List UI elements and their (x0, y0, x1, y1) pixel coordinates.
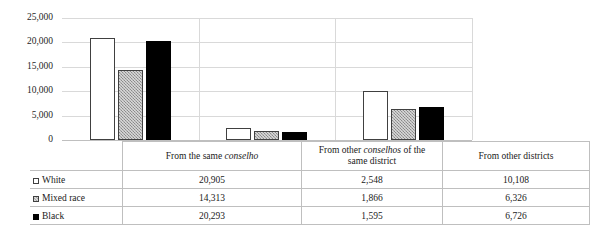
data-table: From the same conselhoFrom other conselh… (30, 141, 590, 225)
bar-mixed-race (118, 70, 143, 140)
bar-mixed-race (391, 109, 416, 140)
table-column-header: From other conselhos of thesame district (302, 142, 443, 171)
table-value-cell: 20,293 (123, 207, 302, 225)
legend-swatch-icon (33, 214, 39, 220)
bar-black (419, 107, 444, 140)
y-axis-tick-label: 10,000 (0, 86, 53, 96)
table-value-cell: 14,313 (123, 189, 302, 207)
data-table-body: From the same conselhoFrom other conselh… (30, 142, 590, 225)
legend-swatch-icon (33, 178, 39, 184)
table-header-row: From the same conselhoFrom other conselh… (30, 142, 590, 171)
legend-swatch-icon (33, 196, 39, 202)
table-value-cell: 20,905 (123, 171, 302, 189)
legend-entry-mixed-race: Mixed race (30, 189, 123, 207)
table-value-cell: 6,726 (443, 207, 590, 225)
table-value-cell: 1,866 (302, 189, 443, 207)
y-axis-tick-label: 15,000 (0, 62, 53, 72)
table-column-header: From the same conselho (123, 142, 302, 171)
plot-area: 05,00010,00015,00020,00025,000 (62, 18, 472, 140)
bar-cluster (62, 18, 199, 140)
bar-white (363, 91, 388, 140)
bar-mixed-race (254, 131, 279, 140)
table-value-cell: 2,548 (302, 171, 443, 189)
bar-black (282, 132, 307, 140)
table-corner-cell (30, 142, 123, 171)
table-value-cell: 1,595 (302, 207, 443, 225)
table-value-cell: 6,326 (443, 189, 590, 207)
table-row: White20,9052,54810,108 (30, 171, 590, 189)
bar-black (146, 41, 171, 140)
bar-cluster (335, 18, 472, 140)
legend-entry-white: White (30, 171, 123, 189)
table-value-cell: 10,108 (443, 171, 590, 189)
bar-white (90, 38, 115, 140)
y-axis-tick-label: 5,000 (0, 111, 53, 121)
table-column-header: From other districts (443, 142, 590, 171)
category-separator (472, 18, 473, 140)
table-row: Black20,2931,5956,726 (30, 207, 590, 225)
legend-entry-label: White (42, 175, 65, 185)
bar-white (226, 128, 251, 140)
bar-cluster (199, 18, 336, 140)
table-row: Mixed race14,3131,8666,326 (30, 189, 590, 207)
legend-entry-label: Mixed race (42, 193, 85, 203)
legend-entry-label: Black (42, 211, 64, 221)
y-axis-tick-label: 20,000 (0, 37, 53, 47)
bar-chart-figure: 05,00010,00015,00020,00025,000 From the … (0, 0, 476, 216)
y-axis-tick-label: 25,000 (0, 13, 53, 23)
legend-entry-black: Black (30, 207, 123, 225)
